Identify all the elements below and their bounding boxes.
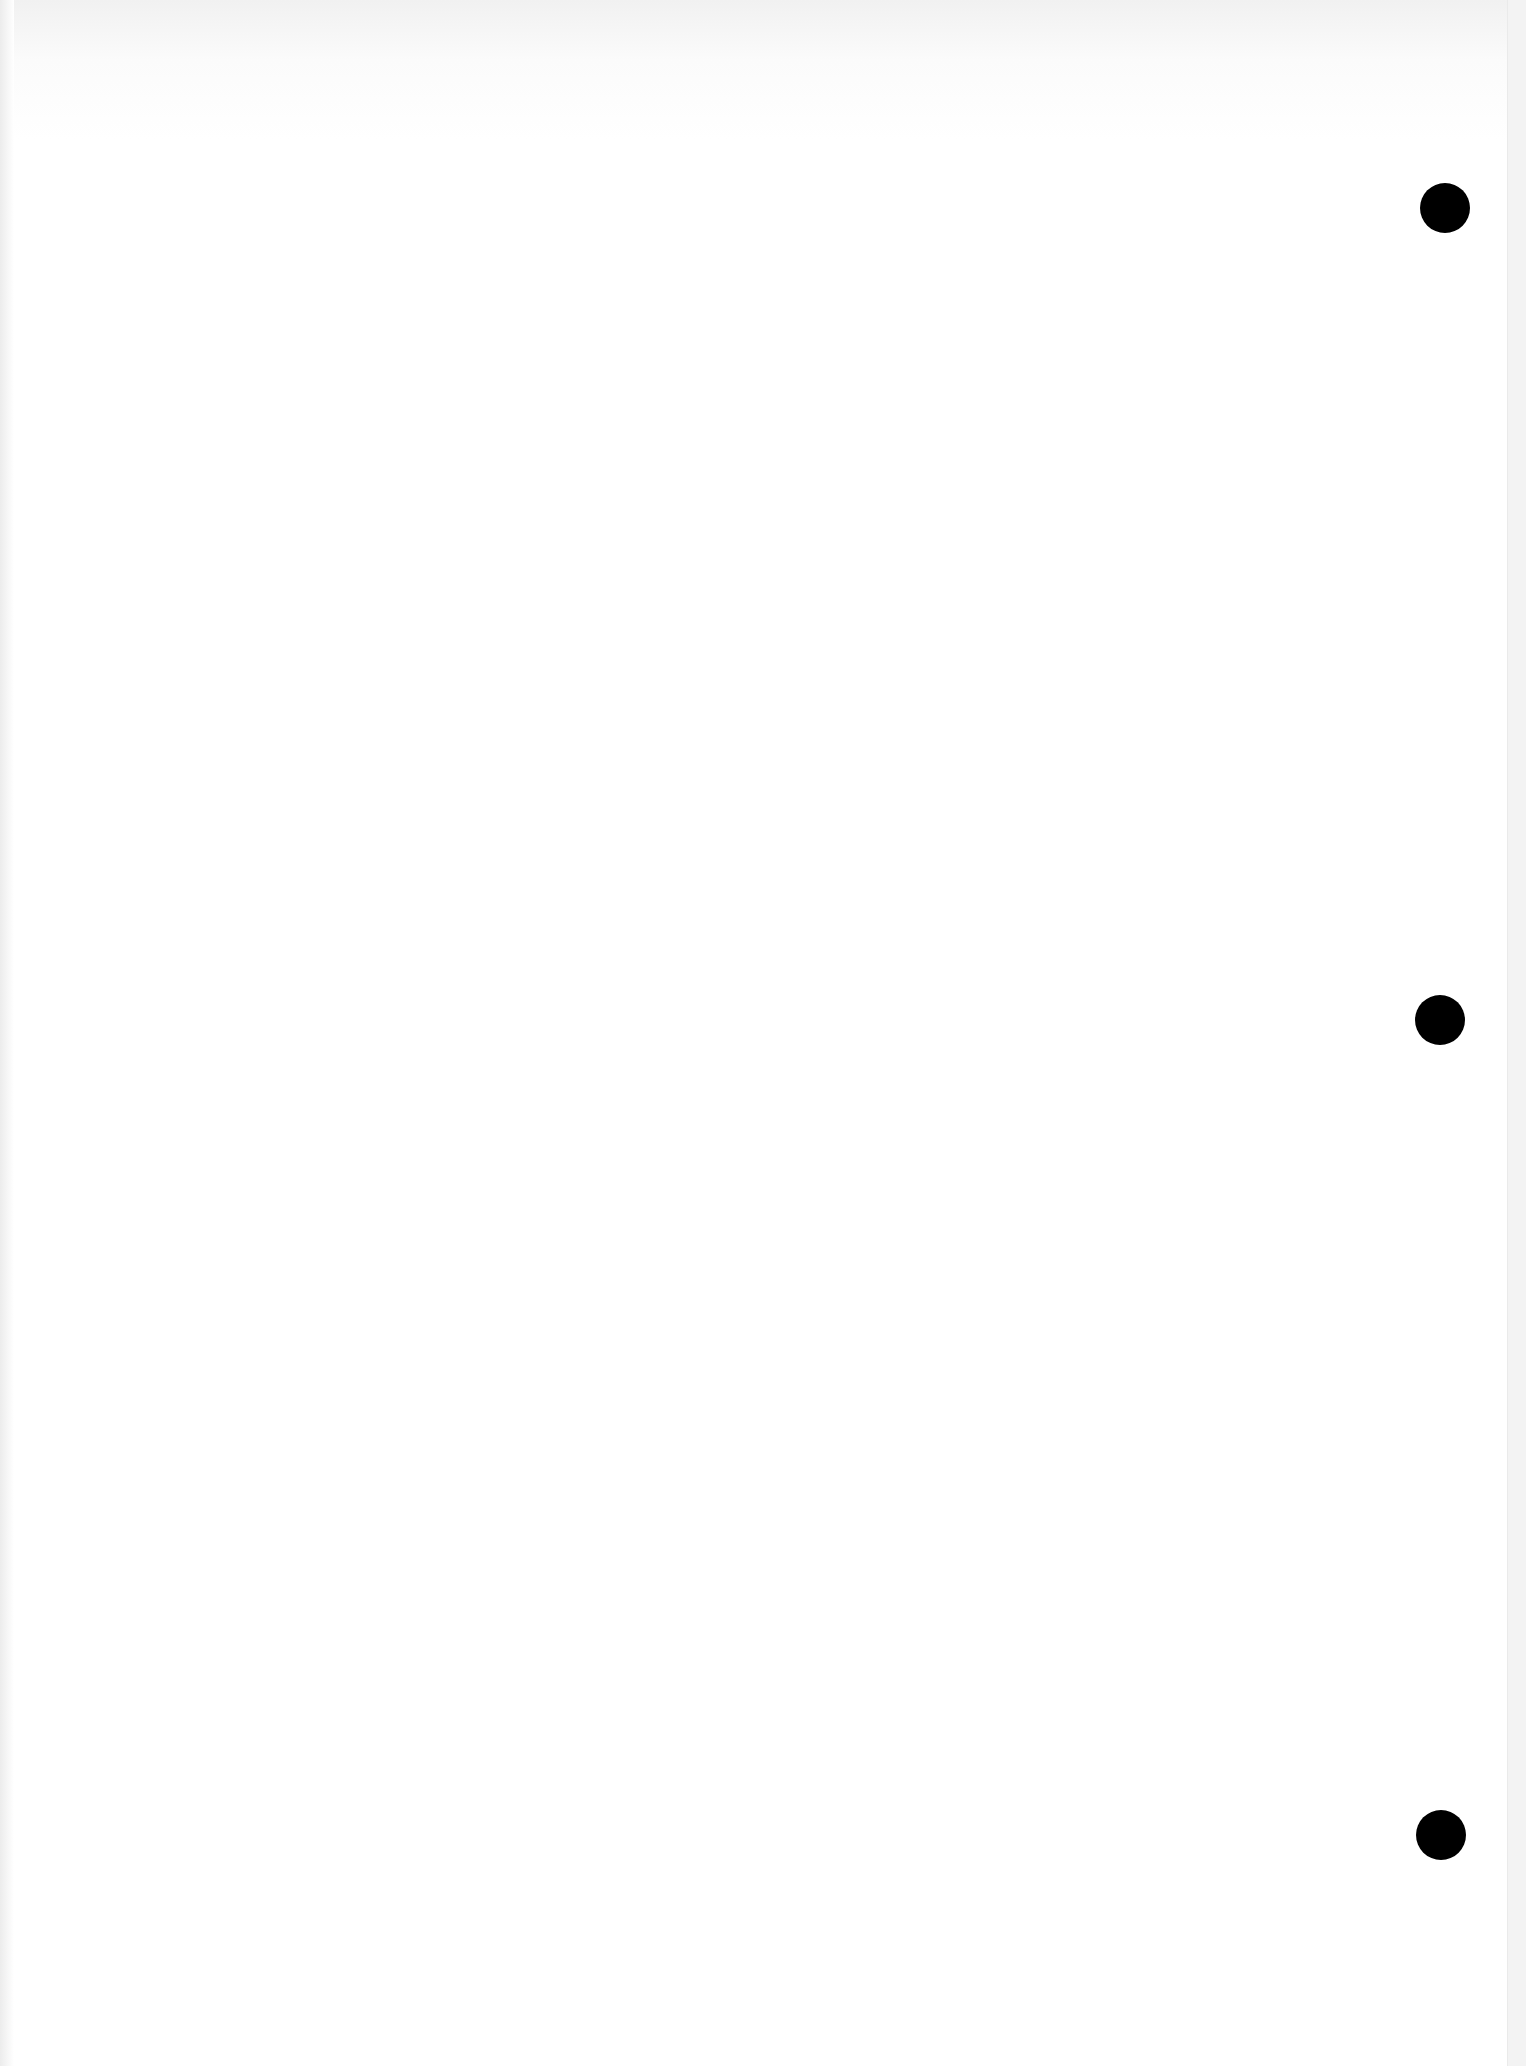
punch-hole [1420,183,1470,233]
page-left-edge [0,0,14,2066]
page-right-edge [1507,0,1526,2066]
punch-hole [1415,995,1465,1045]
scanned-page [0,0,1526,2066]
punch-hole [1416,1810,1466,1860]
